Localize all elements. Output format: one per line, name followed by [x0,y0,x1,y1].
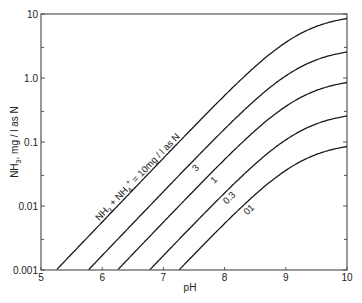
curve-NH3-NH4-10-mg-l-as-N [57,19,347,270]
y-axis-ticks: 0.0010.010.11.010 [13,9,347,276]
curve-labels: NH3 + NH4+ = 10mg / l as N310.301 [92,130,256,224]
x-tick-label: 8 [222,272,228,283]
x-axis-label: pH [184,282,197,293]
ammonia-ph-chart: 0.0010.010.11.010 5678910 NH3 + NH4+ = 1… [0,0,362,303]
x-tick-label: 10 [341,272,353,283]
curve-label: NH3 + NH4+ = 10mg / l as N [92,130,183,224]
plot-frame [41,14,347,270]
x-tick-label: 5 [38,272,44,283]
y-tick-label: 0.1 [24,137,38,148]
y-axis-label: NH3, mg / l as N [9,106,22,178]
x-axis-ticks: 5678910 [38,267,353,283]
curve-label: 0.3 [220,189,237,206]
y-tick-label: 0.001 [13,265,38,276]
x-tick-label: 9 [283,272,289,283]
curve-3 [89,52,347,270]
curve-label: 3 [189,162,201,173]
curve-label: 01 [241,202,256,217]
plot-border [41,14,347,270]
y-tick-label: 0.01 [19,201,39,212]
curve-label: 1 [208,174,220,186]
x-tick-label: 7 [161,272,167,283]
y-tick-label: 1.0 [24,73,38,84]
y-tick-label: 10 [27,9,39,20]
curve-1 [118,83,347,270]
curve-0.1 [179,147,347,270]
curves [57,19,347,270]
x-tick-label: 6 [99,272,105,283]
